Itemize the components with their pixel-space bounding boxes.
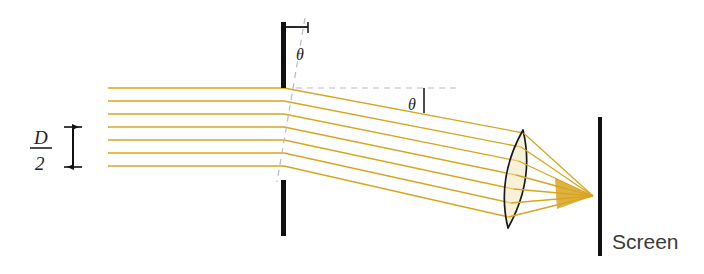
diffracted-ray: [284, 127, 516, 175]
diffracted-ray: [284, 153, 511, 203]
screen-bar: [598, 117, 602, 256]
slit-width-denominator-label: 2: [35, 153, 45, 174]
slit-width-dimension: [64, 127, 82, 167]
diffracted-ray-group: [284, 88, 524, 217]
screen-label: Screen: [612, 230, 679, 253]
incoming-ray-group: [108, 88, 284, 166]
upper-barrier: [281, 22, 286, 88]
diffracted-ray: [284, 88, 524, 133]
diffraction-figure: θ θ D 2 Screen: [0, 0, 704, 274]
lower-barrier: [281, 180, 286, 236]
diffraction-angle-label: θ: [408, 96, 416, 113]
aperture-angle-label: θ: [296, 46, 304, 63]
slit-width-numerator-label: D: [33, 127, 48, 148]
diffracted-ray: [284, 101, 521, 147]
figure-canvas: θ θ D 2 Screen: [0, 0, 704, 274]
diffracted-ray: [284, 166, 509, 217]
diffracted-ray: [284, 140, 514, 189]
diffracted-ray: [284, 114, 519, 161]
